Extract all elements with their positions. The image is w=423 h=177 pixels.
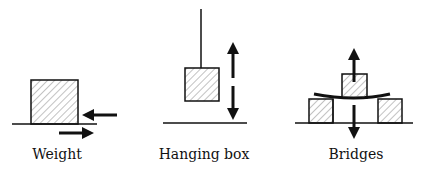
weight-label: Weight — [0, 146, 117, 162]
hanging-box-panel — [163, 9, 247, 123]
hanging-box-label: Hanging box — [144, 146, 264, 162]
bridges-panel — [295, 54, 413, 133]
weight-panel — [12, 80, 117, 133]
bridges-label: Bridges — [296, 146, 416, 162]
right-support-box — [378, 99, 402, 123]
weight-box — [31, 80, 78, 124]
left-support-box — [309, 99, 333, 123]
hanging-box — [185, 68, 219, 101]
